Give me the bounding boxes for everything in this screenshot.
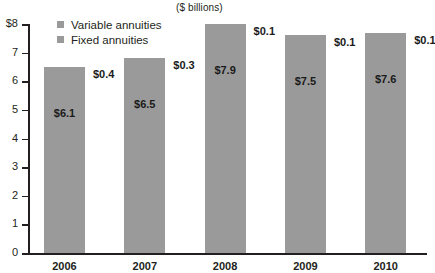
y-axis-tick: $8 — [22, 24, 28, 26]
y-axis-tick: 7 — [22, 53, 28, 55]
bar-2010 — [365, 33, 406, 253]
y-axis-tick-label: 1 — [12, 217, 18, 229]
x-axis-label-2006: 2006 — [44, 260, 85, 272]
y-axis-tick-label: 7 — [12, 46, 18, 58]
y-axis-tick: 2 — [22, 196, 28, 198]
chart-title: ($ billions) — [176, 2, 223, 13]
bar-2006 — [44, 67, 85, 253]
y-axis-tick: 0 — [22, 253, 28, 255]
bar-value-label-variable: $6.1 — [44, 107, 85, 119]
y-axis-tick-label: 0 — [12, 246, 18, 258]
y-axis-tick: 5 — [22, 110, 28, 112]
y-axis-tick: 6 — [22, 81, 28, 83]
bar-value-label-variable: $7.5 — [285, 75, 326, 87]
bar-value-label-fixed: $0.1 — [254, 25, 275, 37]
bar-value-label-fixed: $0.1 — [334, 36, 355, 48]
bar-value-label-fixed: $0.1 — [414, 34, 435, 46]
bar-2007 — [124, 58, 165, 253]
bar-chart: ($ billions) Variable annuities Fixed an… — [0, 0, 435, 273]
bar-value-label-variable: $6.5 — [124, 98, 165, 110]
x-axis-label-2009: 2009 — [285, 260, 326, 272]
y-axis-tick-label: 2 — [12, 189, 18, 201]
x-axis-label-2008: 2008 — [205, 260, 246, 272]
y-axis-line — [28, 24, 30, 253]
plot-area: $876543210 $6.1$0.4$6.5$0.3$7.9$0.1$7.5$… — [28, 24, 428, 253]
bar-value-label-variable: $7.6 — [365, 73, 406, 85]
bar-2008 — [205, 24, 246, 253]
y-axis-tick: 4 — [22, 139, 28, 141]
y-axis-tick-label: 6 — [12, 74, 18, 86]
x-axis-label-2010: 2010 — [365, 260, 406, 272]
y-axis-tick: 1 — [22, 224, 28, 226]
y-axis-tick-label: 5 — [12, 103, 18, 115]
bar-value-label-fixed: $0.3 — [173, 59, 194, 71]
bar-value-label-fixed: $0.4 — [93, 68, 114, 80]
y-axis-tick: 3 — [22, 167, 28, 169]
bar-value-label-variable: $7.9 — [205, 64, 246, 76]
y-axis-tick-label: 4 — [12, 132, 18, 144]
bar-2009 — [285, 35, 326, 253]
x-axis-label-2007: 2007 — [124, 260, 165, 272]
y-axis-tick-label: 3 — [12, 160, 18, 172]
y-axis-tick-label: $8 — [6, 17, 18, 29]
x-axis-line — [22, 253, 427, 255]
